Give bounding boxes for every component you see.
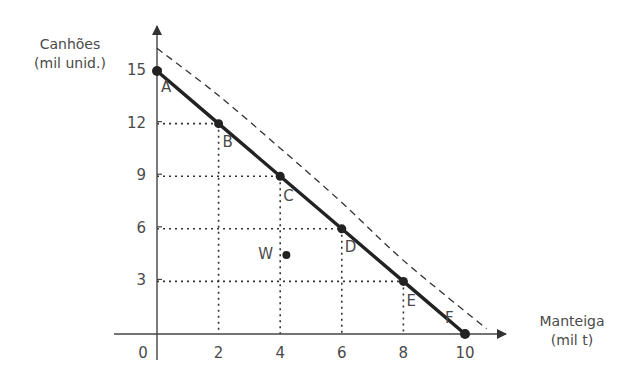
y-axis-label-line2: (mil unid.)	[10, 54, 130, 73]
shifted-frontier-curve	[157, 48, 487, 328]
frontier-curve	[157, 71, 465, 334]
y-axis-label-line1: Canhões	[10, 35, 130, 54]
y-ticks	[157, 69, 162, 279]
y-tick-label: 3	[118, 272, 146, 288]
x-tick-label: 8	[388, 345, 418, 361]
y-tick-label: 15	[118, 62, 146, 78]
x-tick-label: 6	[327, 345, 357, 361]
y-axis-label: Canhões (mil unid.)	[10, 35, 130, 73]
x-axis-label-line2: (mil t)	[522, 331, 622, 350]
point-e-dot	[399, 277, 408, 286]
x-axis-label-line1: Manteiga	[522, 312, 622, 331]
x-tick-label: 0	[128, 345, 158, 361]
point-a-dot	[152, 66, 162, 76]
x-axis-label: Manteiga (mil t)	[522, 312, 622, 350]
x-tick-label: 10	[450, 345, 480, 361]
dotted-guides	[157, 124, 403, 334]
y-tick-label: 9	[118, 167, 146, 183]
point-label-b: B	[223, 134, 233, 150]
y-tick-label: 12	[118, 115, 146, 131]
point-b-dot	[214, 119, 223, 128]
point-c-dot	[276, 172, 285, 181]
point-w-dot	[282, 251, 290, 259]
point-label-f: F	[445, 310, 454, 326]
point-label-a: A	[161, 79, 171, 95]
point-label-w: W	[258, 246, 273, 262]
point-label-d: D	[345, 239, 357, 255]
x-tick-label: 4	[265, 345, 295, 361]
y-tick-label: 6	[118, 220, 146, 236]
point-f-dot	[460, 329, 470, 339]
point-label-e: E	[406, 293, 415, 309]
point-label-c: C	[283, 188, 293, 204]
x-tick-label: 2	[204, 345, 234, 361]
point-d-dot	[337, 224, 346, 233]
